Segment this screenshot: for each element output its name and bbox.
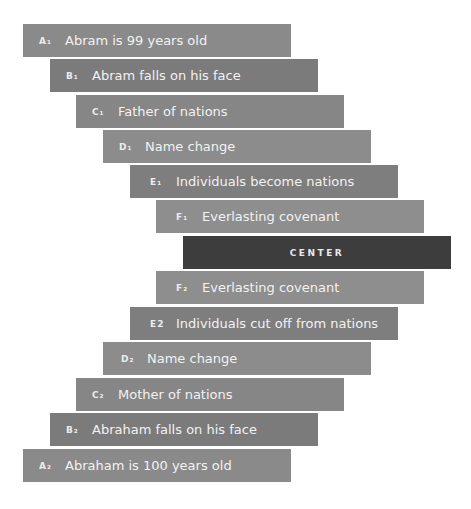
row-text: Name change (145, 139, 235, 154)
row-b1: B₁ Abram falls on his face (50, 59, 318, 92)
row-text: Everlasting covenant (202, 209, 339, 224)
row-c1: C₁ Father of nations (76, 95, 344, 128)
row-d1: D₁ Name change (103, 130, 371, 163)
row-e1: E₁ Individuals become nations (130, 165, 398, 198)
row-text: Name change (147, 351, 237, 366)
row-label: B₁ (66, 71, 92, 81)
row-a2: A₂ Abraham is 100 years old (23, 449, 291, 482)
row-label: A₁ (39, 36, 65, 46)
row-f2: F₂ Everlasting covenant (156, 271, 424, 304)
row-e2: E2 Individuals cut off from nations (130, 307, 398, 340)
center-text: CENTER (290, 248, 345, 258)
row-text: Abraham is 100 years old (65, 458, 232, 473)
row-label: F₂ (176, 283, 202, 293)
row-text: Abram is 99 years old (65, 33, 207, 48)
row-f1: F₁ Everlasting covenant (156, 200, 424, 233)
row-label: E₁ (150, 177, 176, 187)
row-text: Mother of nations (118, 387, 233, 402)
row-text: Abraham falls on his face (92, 422, 257, 437)
row-label: A₂ (39, 461, 65, 471)
row-d2: D₂ Name change (103, 342, 371, 375)
row-label: B₂ (66, 425, 92, 435)
row-label: E2 (150, 319, 176, 329)
row-text: Father of nations (118, 104, 228, 119)
row-label: F₁ (176, 212, 202, 222)
row-text: Individuals become nations (176, 174, 354, 189)
row-b2: B₂ Abraham falls on his face (50, 413, 318, 446)
row-text: Individuals cut off from nations (176, 316, 378, 331)
row-a1: A₁ Abram is 99 years old (23, 24, 291, 57)
row-text: Abram falls on his face (92, 68, 241, 83)
row-c2: C₂ Mother of nations (76, 378, 344, 411)
row-label: C₁ (92, 107, 118, 117)
row-center: CENTER (183, 236, 451, 269)
row-label: D₁ (119, 142, 145, 152)
row-text: Everlasting covenant (202, 280, 339, 295)
row-label: D₂ (121, 354, 147, 364)
row-label: C₂ (92, 390, 118, 400)
